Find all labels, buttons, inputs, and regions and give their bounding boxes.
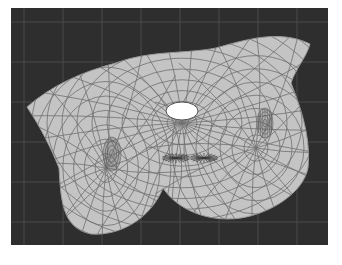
uv-canvas[interactable]	[11, 8, 328, 245]
top-opening-highlight[interactable]	[166, 102, 198, 120]
uv-editor-viewport[interactable]	[11, 8, 328, 245]
uv-mesh[interactable]	[11, 8, 328, 245]
